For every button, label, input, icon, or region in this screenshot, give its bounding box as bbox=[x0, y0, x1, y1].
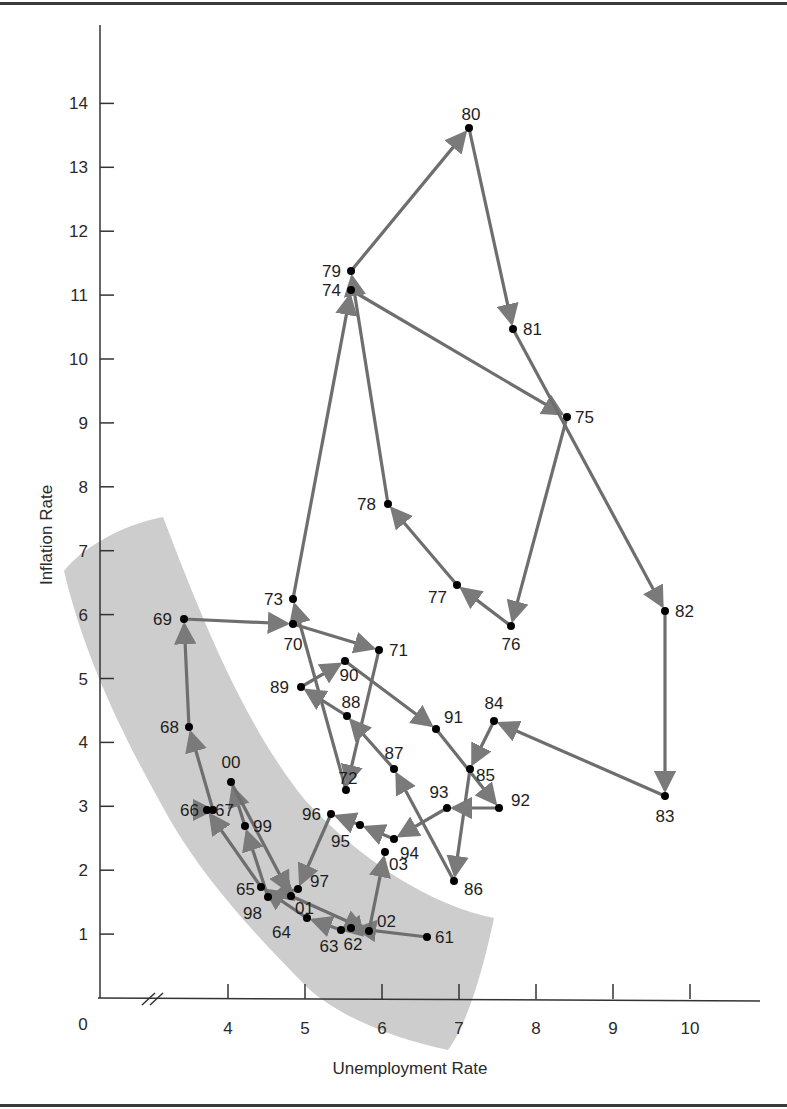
x-tick-label: 8 bbox=[531, 1019, 540, 1038]
trajectory-arrow bbox=[513, 417, 567, 620]
data-point bbox=[180, 615, 188, 623]
data-point bbox=[432, 725, 440, 733]
data-point bbox=[661, 792, 669, 800]
y-axis: 1234567891011121314 bbox=[69, 25, 114, 998]
data-point bbox=[264, 893, 272, 901]
y-tick-label: 12 bbox=[69, 222, 88, 241]
trajectory-arrow bbox=[499, 723, 665, 796]
data-point bbox=[347, 267, 355, 275]
x-axis-title: Unemployment Rate bbox=[333, 1059, 488, 1078]
y-tick-label: 7 bbox=[79, 542, 88, 561]
data-point bbox=[509, 325, 517, 333]
data-point bbox=[507, 622, 515, 630]
point-label: 02 bbox=[377, 912, 396, 931]
point-label: 87 bbox=[385, 744, 404, 763]
point-label: 72 bbox=[339, 769, 358, 788]
trajectory-arrow bbox=[455, 769, 470, 875]
point-label: 71 bbox=[389, 641, 408, 660]
point-label: 68 bbox=[160, 718, 179, 737]
x-origin-label: 0 bbox=[78, 1015, 87, 1034]
data-point bbox=[466, 765, 474, 773]
point-label: 96 bbox=[302, 805, 321, 824]
trajectory-arrow bbox=[473, 721, 494, 764]
trajectory-arrow bbox=[351, 133, 465, 271]
data-point bbox=[375, 646, 383, 654]
point-label: 62 bbox=[344, 935, 363, 954]
point-label: 89 bbox=[270, 678, 289, 697]
y-tick-label: 6 bbox=[79, 606, 88, 625]
point-label: 67 bbox=[215, 801, 234, 820]
data-point bbox=[381, 848, 389, 856]
y-tick-label: 13 bbox=[69, 158, 88, 177]
point-label: 97 bbox=[310, 872, 329, 891]
point-label: 84 bbox=[485, 694, 504, 713]
point-label: 73 bbox=[264, 590, 283, 609]
point-label: 92 bbox=[511, 791, 530, 810]
y-tick-label: 14 bbox=[69, 94, 88, 113]
point-label: 93 bbox=[430, 783, 449, 802]
data-point bbox=[294, 885, 302, 893]
data-point bbox=[341, 657, 349, 665]
point-label: 66 bbox=[180, 801, 199, 820]
data-point bbox=[337, 926, 345, 934]
data-point bbox=[289, 595, 297, 603]
data-point bbox=[390, 765, 398, 773]
x-tick-label: 5 bbox=[300, 1019, 309, 1038]
trajectory-arrow bbox=[351, 290, 562, 414]
trajectory-arrow bbox=[366, 827, 394, 839]
y-tick-label: 8 bbox=[79, 478, 88, 497]
point-label: 80 bbox=[462, 105, 481, 124]
data-point bbox=[343, 712, 351, 720]
y-tick-label: 2 bbox=[79, 861, 88, 880]
trajectory-arrow bbox=[399, 808, 447, 836]
point-label: 85 bbox=[476, 766, 495, 785]
x-tick-label: 10 bbox=[681, 1019, 700, 1038]
point-label: 74 bbox=[322, 281, 341, 300]
data-point bbox=[327, 810, 335, 818]
point-label: 76 bbox=[502, 635, 521, 654]
data-point bbox=[347, 924, 355, 932]
y-tick-label: 1 bbox=[79, 925, 88, 944]
point-label: 78 bbox=[357, 495, 376, 514]
y-axis-title: Inflation Rate bbox=[37, 485, 56, 585]
data-point bbox=[297, 683, 305, 691]
trajectory-arrow bbox=[301, 664, 340, 687]
point-label: 86 bbox=[464, 880, 483, 899]
point-label: 82 bbox=[675, 602, 694, 621]
data-point bbox=[185, 723, 193, 731]
y-tick-label: 10 bbox=[69, 350, 88, 369]
data-point bbox=[423, 933, 431, 941]
point-label: 88 bbox=[342, 693, 361, 712]
y-tick-label: 5 bbox=[79, 670, 88, 689]
data-point bbox=[453, 581, 461, 589]
point-label: 69 bbox=[153, 610, 172, 629]
data-point bbox=[384, 500, 392, 508]
data-point bbox=[241, 822, 249, 830]
point-label: 79 bbox=[322, 262, 341, 281]
trajectory-arrow bbox=[469, 128, 512, 323]
point-label: 99 bbox=[253, 817, 272, 836]
point-label: 70 bbox=[284, 635, 303, 654]
trajectory-arrow bbox=[462, 589, 511, 626]
data-point bbox=[661, 607, 669, 615]
trajectory-arrow bbox=[293, 296, 350, 599]
x-tick-label: 9 bbox=[608, 1019, 617, 1038]
phillips-curve-chart: 1234567891011121314 45678910 Unemploymen… bbox=[0, 0, 787, 1109]
point-label: 64 bbox=[272, 923, 291, 942]
point-label: 75 bbox=[575, 408, 594, 427]
data-point bbox=[227, 778, 235, 786]
point-label: 81 bbox=[523, 320, 542, 339]
point-label: 98 bbox=[243, 904, 262, 923]
point-label: 03 bbox=[389, 855, 408, 874]
data-point bbox=[443, 804, 451, 812]
data-point bbox=[347, 286, 355, 294]
data-point bbox=[563, 413, 571, 421]
point-label: 83 bbox=[656, 807, 675, 826]
data-point bbox=[495, 804, 503, 812]
trajectory-arrow bbox=[513, 329, 662, 606]
data-point bbox=[465, 124, 473, 132]
point-label: 65 bbox=[236, 880, 255, 899]
y-tick-label: 3 bbox=[79, 797, 88, 816]
x-tick-label: 6 bbox=[377, 1019, 386, 1038]
y-tick-label: 4 bbox=[79, 733, 88, 752]
